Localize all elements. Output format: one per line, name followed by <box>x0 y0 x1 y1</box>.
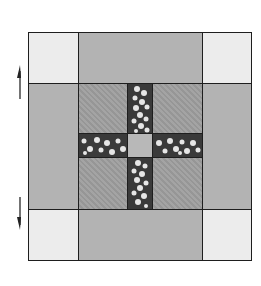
border-rect-left <box>28 83 79 210</box>
inner-square-bottom-left <box>78 157 128 210</box>
speckle-pattern <box>79 134 128 158</box>
corner-square-bottom-left <box>28 209 79 261</box>
corner-square-top-right <box>202 32 252 84</box>
inner-square-top-left <box>78 83 128 134</box>
inner-square-bottom-right <box>152 157 203 210</box>
border-rect-bottom <box>78 209 203 261</box>
center-square <box>127 133 153 158</box>
arrow-down-icon <box>14 195 26 231</box>
strip-top <box>127 83 153 134</box>
corner-square-top-left <box>28 32 79 84</box>
quilt-block <box>28 32 252 261</box>
speckle-pattern <box>128 84 153 134</box>
speckle-pattern <box>128 158 153 210</box>
arrow-up-icon <box>14 65 26 101</box>
strip-bottom <box>127 157 153 210</box>
border-rect-top <box>78 32 203 84</box>
inner-square-top-right <box>152 83 203 134</box>
border-rect-right <box>202 83 252 210</box>
strip-left <box>78 133 128 158</box>
strip-right <box>152 133 203 158</box>
corner-square-bottom-right <box>202 209 252 261</box>
speckle-pattern <box>153 134 203 158</box>
